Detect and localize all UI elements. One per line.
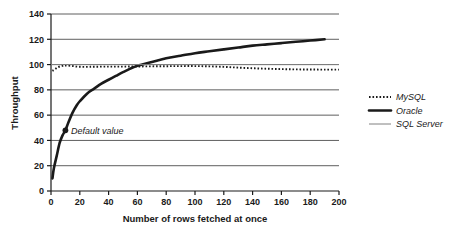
series-line-mysql [52,66,339,71]
x-tick-label-200: 200 [331,197,346,207]
y-tick-label-20: 20 [34,161,44,171]
chart-canvas: 020406080100120140 020406080100120140160… [0,0,464,242]
chart-figure: 020406080100120140 020406080100120140160… [0,0,464,242]
y-tick-label-60: 60 [34,110,44,120]
x-tick-label-120: 120 [216,197,231,207]
series-line-oracle [52,39,324,178]
x-tick-label-160: 160 [274,197,289,207]
x-axis-ticks: 020406080100120140160180200 [48,191,346,207]
y-tick-label-40: 40 [34,136,44,146]
x-tick-label-20: 20 [75,197,85,207]
y-tick-label-0: 0 [39,186,44,196]
annotation-layer: Default value [63,126,124,136]
x-tick-label-60: 60 [132,197,142,207]
y-tick-label-100: 100 [29,60,44,70]
legend-label-oracle: Oracle [396,106,423,116]
legend-label-sql-server: SQL Server [396,119,444,129]
x-tick-label-100: 100 [187,197,202,207]
x-tick-label-180: 180 [303,197,318,207]
x-axis-title: Number of rows fetched at once [123,213,268,224]
y-tick-label-80: 80 [34,85,44,95]
y-tick-label-120: 120 [29,35,44,45]
chart-legend: MySQLOracleSQL Server [369,92,444,129]
annotation-label-0: Default value [71,126,124,136]
x-tick-label-140: 140 [245,197,260,207]
y-axis-ticks: 020406080100120140 [29,9,51,196]
x-tick-label-80: 80 [161,197,171,207]
y-axis-title: Throughput [9,76,20,130]
y-tick-label-140: 140 [29,9,44,19]
annotation-marker-0 [63,127,69,133]
legend-label-mysql: MySQL [396,92,426,102]
x-tick-label-40: 40 [104,197,114,207]
x-tick-label-0: 0 [48,197,53,207]
data-series-layer [51,39,339,178]
